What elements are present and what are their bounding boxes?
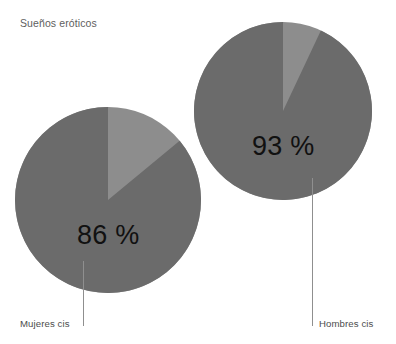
pie-mujeres-cis: [15, 107, 201, 293]
pies-canvas: [0, 0, 396, 344]
pie-chart-figure: Sueños eróticos 86 % 93 % Mujeres cis Ho…: [0, 0, 396, 344]
pie-slice-primary-men: [194, 22, 372, 200]
category-label-mujeres-cis: Mujeres cis: [20, 318, 70, 330]
pie-hombres-cis: [194, 22, 372, 200]
value-label-mujeres-cis: 86 %: [77, 222, 139, 249]
value-label-hombres-cis: 93 %: [252, 133, 314, 160]
category-label-hombres-cis: Hombres cis: [319, 318, 373, 330]
